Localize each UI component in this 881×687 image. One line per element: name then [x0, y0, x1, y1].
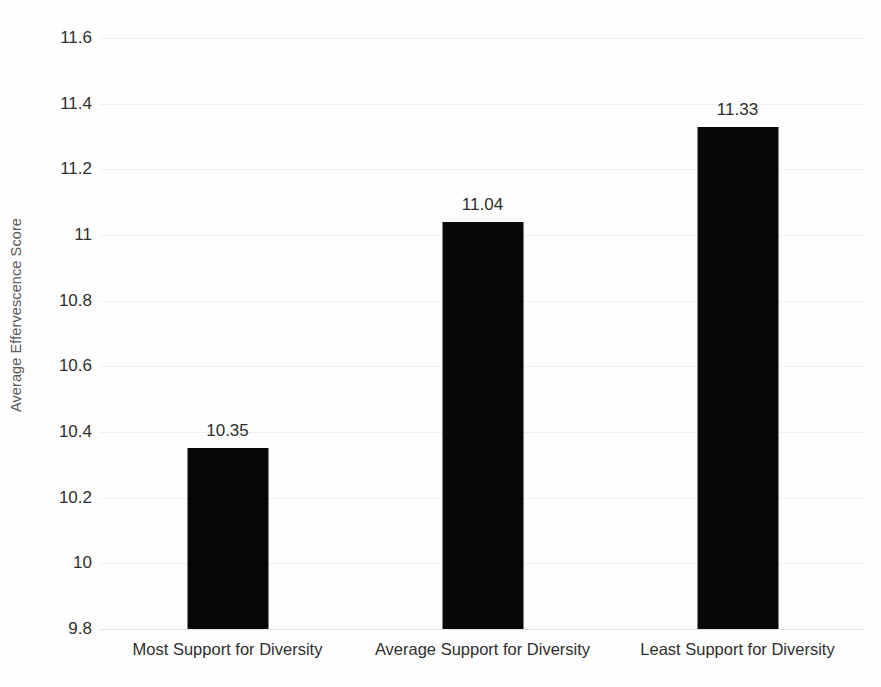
bar[interactable] — [187, 448, 268, 629]
y-axis-tick-label: 10.4 — [32, 422, 100, 442]
x-axis-category-label: Average Support for Diversity — [375, 640, 590, 659]
bar-value-label: 10.35 — [206, 421, 249, 441]
bar-slot: 11.04 — [355, 38, 610, 629]
y-axis-tick-label: 11.2 — [32, 159, 100, 179]
bar-slot: 11.33 — [610, 38, 865, 629]
y-axis-tick-labels: 9.81010.210.410.610.81111.211.411.6 — [22, 0, 100, 687]
bar[interactable] — [442, 222, 523, 629]
y-axis-tick-label: 11.6 — [32, 28, 100, 48]
y-axis-tick-label: 11.4 — [32, 94, 100, 114]
bar-chart: Average Effervescence Score 9.81010.210.… — [0, 0, 881, 687]
bar-slot: 10.35 — [100, 38, 355, 629]
x-axis-line — [100, 629, 865, 630]
y-axis-tick-label: 9.8 — [32, 619, 100, 639]
bar-value-label: 11.33 — [717, 100, 758, 120]
bar[interactable] — [697, 127, 778, 629]
y-axis-tick-label: 10.8 — [32, 291, 100, 311]
plot-area: 10.3511.0411.33 — [100, 38, 865, 629]
x-axis-category-labels: Most Support for DiversityAverage Suppor… — [100, 640, 865, 670]
y-axis-tick-label: 10.2 — [32, 488, 100, 508]
bar-value-label: 11.04 — [462, 195, 503, 215]
x-axis-category-label: Least Support for Diversity — [640, 640, 834, 659]
y-axis-tick-label: 11 — [32, 225, 100, 245]
y-axis-tick-label: 10 — [32, 553, 100, 573]
y-axis-tick-label: 10.6 — [32, 356, 100, 376]
x-axis-category-label: Most Support for Diversity — [133, 640, 323, 659]
